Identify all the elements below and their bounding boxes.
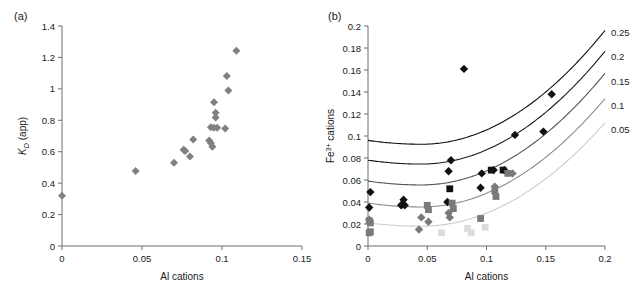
data-point-square [425, 206, 432, 213]
data-point-diamond [58, 192, 66, 200]
x-tick-label: 0.15 [537, 253, 556, 264]
panel-a-plot: 00.20.40.60.811.21.400.050.10.15Al catio… [0, 0, 320, 294]
y-tick-label: 0.6 [42, 146, 55, 157]
data-point-diamond [189, 135, 197, 143]
curve-label: 0.15 [611, 76, 630, 87]
y-tick-label: 1.2 [42, 52, 55, 63]
data-point-diamond [210, 98, 218, 106]
data-point-diamond [476, 184, 484, 192]
data-point-square [450, 205, 457, 212]
figure-container: (a) 00.20.40.60.811.21.400.050.10.15Al c… [0, 0, 637, 294]
data-point-diamond [511, 131, 519, 139]
data-point-diamond [232, 47, 240, 55]
x-tick-label: 0.2 [598, 253, 611, 264]
y-tick-label: 0 [50, 241, 55, 252]
y-tick-label: 0.02 [343, 219, 362, 230]
data-point-diamond [460, 65, 468, 73]
curve-label: 0.2 [611, 51, 624, 62]
data-point-diamond [539, 127, 547, 135]
x-tick-label: 0 [59, 253, 64, 264]
y-tick-label: 0.08 [343, 153, 362, 164]
curve-label: 0.1 [611, 100, 624, 111]
y-tick-label: 0 [356, 241, 361, 252]
data-point-square [477, 215, 484, 222]
x-tick-label: 0 [365, 253, 370, 264]
data-point-diamond [212, 113, 220, 121]
data-point-square [493, 193, 500, 200]
y-axis-title: Fe3+ cations [325, 109, 337, 163]
model-curve [368, 123, 605, 226]
panel-b-plot: 00.020.040.060.080.10.120.140.160.180.20… [320, 0, 637, 294]
y-tick-label: 0.8 [42, 115, 55, 126]
y-tick-label: 1 [50, 83, 55, 94]
model-curve [368, 99, 605, 207]
svg-text:KD (app): KD (app) [17, 117, 31, 155]
y-tick-label: 0.12 [343, 109, 362, 120]
data-point-square [446, 185, 453, 192]
data-point-diamond [221, 124, 229, 132]
data-point-diamond [424, 218, 432, 226]
x-tick-label: 0.1 [215, 253, 228, 264]
y-tick-label: 0.04 [343, 197, 362, 208]
x-axis-title: Al cations [160, 271, 203, 282]
y-tick-label: 0.14 [343, 87, 362, 98]
x-tick-label: 0.05 [418, 253, 437, 264]
curve-label: 0.05 [611, 124, 630, 135]
model-curve [368, 51, 605, 164]
y-tick-label: 1.4 [42, 21, 55, 32]
svg-text:Fe3+ cations: Fe3+ cations [325, 109, 337, 163]
model-curve [368, 30, 605, 144]
panel-b-points [365, 65, 556, 237]
y-tick-label: 0.06 [343, 175, 362, 186]
x-tick-label: 0.1 [480, 253, 493, 264]
curve-label: 0.25 [611, 27, 630, 38]
panel-a: (a) 00.20.40.60.811.21.400.050.10.15Al c… [0, 0, 320, 294]
data-point-diamond [170, 159, 178, 167]
data-point-diamond [417, 213, 425, 221]
data-point-diamond [186, 152, 194, 160]
data-point-diamond [447, 156, 455, 164]
y-tick-label: 0.2 [348, 21, 361, 32]
y-tick-label: 0.2 [42, 209, 55, 220]
data-point-diamond [132, 167, 140, 175]
data-point-diamond [223, 72, 231, 80]
data-point-diamond [365, 203, 373, 211]
x-axis-title: Al cations [465, 271, 508, 282]
data-point-square [367, 228, 374, 235]
data-point-square [468, 229, 475, 236]
data-point-diamond [224, 86, 232, 94]
data-point-diamond [478, 169, 486, 177]
panel-b: (b) 00.020.040.060.080.10.120.140.160.18… [320, 0, 637, 294]
panel-a-points [58, 47, 240, 200]
x-tick-label: 0.05 [133, 253, 152, 264]
data-point-diamond [444, 167, 452, 175]
data-point-diamond [547, 90, 555, 98]
y-tick-label: 0.18 [343, 43, 362, 54]
data-point-square [438, 229, 445, 236]
data-point-square [482, 224, 489, 231]
x-tick-label: 0.15 [293, 253, 312, 264]
y-tick-label: 0.4 [42, 178, 55, 189]
data-point-diamond [366, 188, 374, 196]
y-axis-title: KD (app) [17, 117, 31, 155]
data-point-square [488, 167, 495, 174]
y-tick-label: 0.1 [348, 131, 361, 142]
y-tick-label: 0.16 [343, 65, 362, 76]
